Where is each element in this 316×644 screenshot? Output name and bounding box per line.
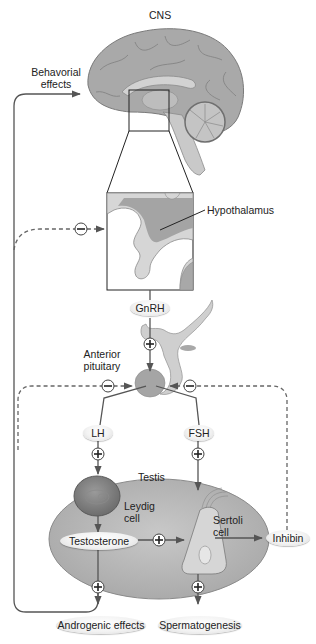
behavioral-effects-line1: Behavorial — [24, 66, 88, 78]
inhibin-hormone: Inhibin — [266, 530, 310, 546]
minus-sign-icon — [102, 380, 114, 392]
plus-sign-icon — [144, 338, 156, 350]
plus-sign-icon — [92, 448, 104, 460]
spermatogenesis-outcome: Spermatogenesis — [158, 616, 242, 634]
hypothalamus-label: Hypothalamus — [207, 204, 274, 216]
behavioral-effects-label: Behavorial effects — [24, 66, 88, 90]
plus-sign-icon — [192, 581, 204, 593]
cns-label: CNS — [149, 9, 171, 21]
testis-label: Testis — [138, 471, 165, 483]
sertoli-line2: cell — [213, 526, 243, 538]
sertoli-cell-label: Sertoli cell — [213, 514, 243, 538]
plus-sign-icon — [153, 534, 165, 546]
testosterone-hormone: Testosterone — [60, 532, 138, 550]
brain-illustration — [88, 29, 244, 193]
leydig-cell-label: Leydig cell — [124, 500, 155, 524]
leydig-line2: cell — [124, 512, 155, 524]
plus-sign-icon — [92, 581, 104, 593]
lh-hormone: LH — [83, 425, 113, 441]
anterior-pituitary-label: Anterior pituitary — [76, 348, 128, 372]
behavioral-effects-line2: effects — [24, 78, 88, 90]
sertoli-line1: Sertoli — [213, 514, 243, 526]
hypothalamus-inset — [107, 193, 205, 290]
minus-sign-icon — [184, 380, 196, 392]
minus-sign-icon — [75, 223, 87, 235]
diagram-canvas — [0, 0, 316, 644]
androgenic-effects-outcome: Androgenic effects — [56, 616, 146, 634]
anterior-pituitary-line1: Anterior — [76, 348, 128, 360]
plus-sign-icon — [192, 448, 204, 460]
leydig-line1: Leydig — [124, 500, 155, 512]
fsh-hormone: FSH — [184, 425, 214, 441]
anterior-pituitary-line2: pituitary — [76, 360, 128, 372]
gnrh-hormone: GnRH — [130, 300, 170, 316]
